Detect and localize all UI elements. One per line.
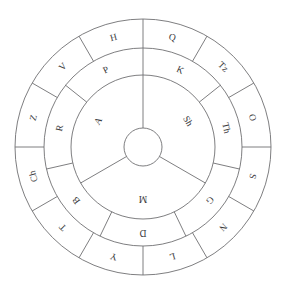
center-hub — [124, 128, 162, 166]
letter-wheel-svg: QTzOSNLYTChZVHKThGDBRPShMA — [0, 0, 285, 294]
letter-wheel-figure: QTzOSNLYTChZVHKThGDBRPShMA — [0, 0, 285, 294]
middle-ring-letter-d: D — [139, 228, 146, 238]
inner-ring-letter-m: M — [138, 194, 147, 204]
